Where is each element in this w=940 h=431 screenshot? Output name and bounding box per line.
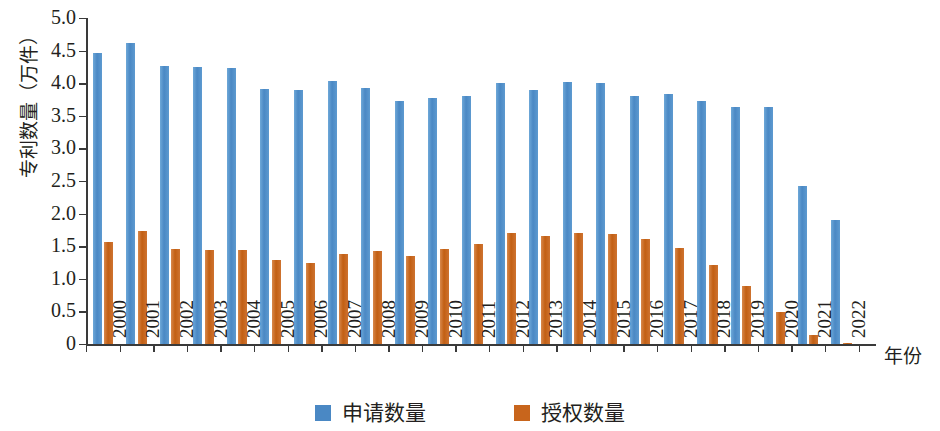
y-tick-mark — [79, 148, 86, 149]
bar-grant-2022 — [843, 343, 852, 344]
x-tick-mark — [321, 344, 322, 352]
x-tick-mark — [254, 344, 255, 352]
legend-swatch-apply-icon — [315, 405, 331, 421]
x-label-2002: 2002 — [177, 300, 196, 338]
legend-label-grant: 授权数量 — [541, 402, 625, 424]
x-label-2022: 2022 — [849, 300, 868, 338]
x-tick-mark — [590, 344, 591, 352]
y-tick-label: 3.0 — [51, 136, 76, 158]
y-tick-mark — [79, 116, 86, 117]
y-tick-label: 3.5 — [51, 104, 76, 126]
x-label-2003: 2003 — [211, 300, 230, 338]
patent-bar-chart: 专利数量（万件） 00.51.01.52.02.53.03.54.04.55.0… — [0, 0, 940, 431]
x-tick-mark — [556, 344, 557, 352]
x-axis-title: 年份 — [884, 341, 922, 368]
x-label-2021: 2021 — [815, 300, 834, 338]
x-label-2000: 2000 — [110, 300, 129, 338]
x-label-2007: 2007 — [345, 300, 364, 338]
x-label-2010: 2010 — [446, 300, 465, 338]
x-label-2019: 2019 — [748, 300, 767, 338]
y-tick-mark — [79, 279, 86, 280]
x-tick-mark — [623, 344, 624, 352]
y-tick-label: 5.0 — [51, 6, 76, 28]
x-tick-mark — [86, 344, 87, 352]
x-tick-mark — [355, 344, 356, 352]
x-label-2014: 2014 — [580, 300, 599, 338]
x-tick-mark — [120, 344, 121, 352]
x-tick-mark — [489, 344, 490, 352]
x-tick-mark — [657, 344, 658, 352]
y-tick-mark — [79, 344, 86, 345]
x-tick-mark — [422, 344, 423, 352]
y-axis-line — [86, 18, 88, 344]
y-tick-label: 2.0 — [51, 202, 76, 224]
y-tick-label: 1.0 — [51, 267, 76, 289]
y-tick-mark — [79, 18, 86, 19]
x-label-2008: 2008 — [379, 300, 398, 338]
plot-area: 00.51.01.52.02.53.03.54.04.55.0 — [86, 18, 876, 344]
y-tick-label: 2.5 — [51, 169, 76, 191]
x-label-2013: 2013 — [546, 300, 565, 338]
x-label-2004: 2004 — [244, 300, 263, 338]
y-tick-label: 0 — [66, 332, 76, 354]
bar-apply-2000 — [93, 53, 102, 344]
legend-item-grant: 授权数量 — [514, 402, 625, 424]
x-tick-mark — [691, 344, 692, 352]
x-tick-mark — [523, 344, 524, 352]
x-tick-mark — [153, 344, 154, 352]
x-tick-mark — [288, 344, 289, 352]
x-label-2005: 2005 — [278, 300, 297, 338]
x-label-2018: 2018 — [714, 300, 733, 338]
x-tick-mark — [825, 344, 826, 352]
x-label-2012: 2012 — [513, 300, 532, 338]
x-tick-mark — [220, 344, 221, 352]
y-tick-mark — [79, 214, 86, 215]
x-tick-mark — [791, 344, 792, 352]
x-label-2016: 2016 — [647, 300, 666, 338]
legend-item-apply: 申请数量 — [315, 402, 426, 424]
legend-swatch-grant-icon — [514, 405, 530, 421]
x-label-2006: 2006 — [311, 300, 330, 338]
x-tick-mark — [724, 344, 725, 352]
y-tick-mark — [79, 181, 86, 182]
x-label-2020: 2020 — [782, 300, 801, 338]
y-tick-label: 4.5 — [51, 39, 76, 61]
x-label-2015: 2015 — [614, 300, 633, 338]
y-tick-mark — [79, 246, 86, 247]
legend-label-apply: 申请数量 — [342, 402, 426, 424]
bar-apply-2001 — [126, 43, 135, 344]
x-tick-mark — [388, 344, 389, 352]
x-label-2009: 2009 — [412, 300, 431, 338]
y-axis-title: 专利数量（万件） — [14, 0, 41, 217]
x-tick-mark — [187, 344, 188, 352]
x-tick-mark — [859, 344, 860, 352]
y-tick-mark — [79, 51, 86, 52]
x-label-2011: 2011 — [479, 301, 498, 338]
y-tick-mark — [79, 83, 86, 84]
chart-legend: 申请数量 授权数量 — [0, 402, 940, 424]
y-tick-label: 4.0 — [51, 71, 76, 93]
y-tick-label: 1.5 — [51, 234, 76, 256]
x-tick-mark — [455, 344, 456, 352]
x-tick-mark — [758, 344, 759, 352]
y-tick-label: 0.5 — [51, 299, 76, 321]
x-label-2017: 2017 — [681, 300, 700, 338]
y-tick-mark — [79, 311, 86, 312]
x-label-2001: 2001 — [143, 300, 162, 338]
